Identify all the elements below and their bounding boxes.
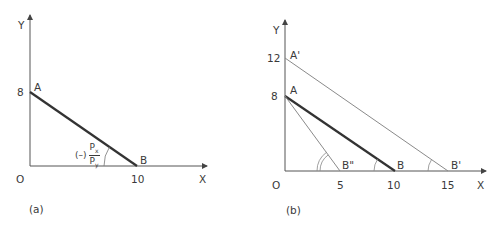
panel-b-point-b-label: B [397,160,404,171]
panel-b-x-axis-label: X [477,180,484,191]
panel-b-budget-line-ab-double-prime [285,96,340,171]
panel-b-point-a-prime-label: A' [290,50,300,61]
panel-b-origin-label: O [272,180,280,191]
panel-b-angle-arc-b-double-prime-outer [317,152,326,171]
panel-b-y-tick-12: 12 [267,53,280,64]
panel-b-angle-arc-b-prime [428,160,432,171]
panel-b-x-tick-5: 5 [337,180,344,191]
panel-a-point-b-label: B [140,155,147,166]
panel-a-slope-angle-arc [104,147,110,166]
panel-b-caption: (b) [286,205,301,216]
panel-b-angle-arc-b [374,159,378,171]
panel-a-caption: (a) [29,204,44,215]
panel-a-point-a-label: A [34,82,41,93]
panel-a-y-axis-label: Y [18,20,24,31]
panel-b-point-b-double-prime-label: B" [342,160,354,171]
panel-a [30,15,207,166]
panel-b-budget-line-ab [285,96,395,171]
panel-b-x-tick-15: 15 [441,180,454,191]
panel-b-y-tick-8: 8 [271,91,278,102]
panel-a-y-tick-8: 8 [17,87,24,98]
panel-a-x-axis-label: X [199,174,206,185]
panel-b-budget-line-a-prime-b-prime [285,58,448,171]
panel-b-x-tick-10: 10 [387,180,400,191]
slope-sign: (–) [75,151,87,160]
budget-line-diagram [0,0,500,230]
panel-b-point-a-label: A [290,85,297,96]
panel-a-x-tick-10: 10 [131,174,144,185]
panel-b-point-b-prime-label: B' [451,160,461,171]
panel-a-origin-label: O [16,174,24,185]
slope-denominator: Py [89,156,100,168]
panel-b [285,20,486,171]
panel-a-slope-label: (–) Px Py [75,143,100,168]
slope-numerator: Px [89,143,100,156]
panel-b-y-axis-label: Y [273,25,279,36]
